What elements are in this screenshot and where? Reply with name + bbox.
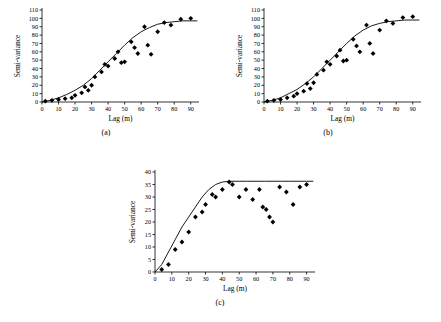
svg-text:80: 80 xyxy=(287,275,293,282)
svg-text:60: 60 xyxy=(253,275,259,282)
svg-text:90: 90 xyxy=(303,275,309,282)
svg-text:50: 50 xyxy=(254,56,260,63)
svg-text:70: 70 xyxy=(155,105,161,112)
chart-a: 0102030405060708090100110010203040506070… xyxy=(6,2,206,130)
svg-text:0: 0 xyxy=(35,98,38,105)
svg-text:110: 110 xyxy=(29,6,38,13)
svg-text:70: 70 xyxy=(32,40,38,47)
svg-text:Semi-variance: Semi-variance xyxy=(13,34,22,77)
svg-text:40: 40 xyxy=(32,65,38,72)
svg-text:40: 40 xyxy=(145,168,151,175)
svg-text:90: 90 xyxy=(32,23,38,30)
svg-text:100: 100 xyxy=(29,15,38,22)
svg-text:80: 80 xyxy=(32,31,38,38)
svg-text:90: 90 xyxy=(254,23,260,30)
svg-text:10: 10 xyxy=(169,275,175,282)
svg-text:10: 10 xyxy=(277,105,283,112)
svg-text:0: 0 xyxy=(148,268,151,275)
svg-text:110: 110 xyxy=(251,6,260,13)
svg-text:15: 15 xyxy=(145,231,151,238)
svg-text:Lag (m): Lag (m) xyxy=(223,284,248,293)
svg-text:10: 10 xyxy=(145,243,151,250)
svg-text:0: 0 xyxy=(257,98,260,105)
svg-text:40: 40 xyxy=(105,105,111,112)
panel-c-caption: (c) xyxy=(115,298,325,307)
svg-text:50: 50 xyxy=(344,105,350,112)
svg-text:30: 30 xyxy=(254,73,260,80)
svg-text:100: 100 xyxy=(251,15,260,22)
svg-text:40: 40 xyxy=(219,275,225,282)
panel-c: 05101520253035400102030405060708090Lag (… xyxy=(115,164,325,314)
svg-text:25: 25 xyxy=(145,206,151,213)
svg-text:70: 70 xyxy=(270,275,276,282)
panel-b-caption: (b) xyxy=(228,128,428,137)
chart-b: 0102030405060708090100110010203040506070… xyxy=(228,2,428,130)
panel-b: 0102030405060708090100110010203040506070… xyxy=(228,2,428,142)
svg-text:30: 30 xyxy=(145,193,151,200)
svg-text:0: 0 xyxy=(153,275,156,282)
svg-text:Lag (m): Lag (m) xyxy=(108,114,133,123)
svg-text:5: 5 xyxy=(148,256,151,263)
panel-a-caption: (a) xyxy=(6,128,206,137)
svg-text:10: 10 xyxy=(32,90,38,97)
svg-text:20: 20 xyxy=(32,81,38,88)
svg-text:40: 40 xyxy=(254,65,260,72)
svg-text:60: 60 xyxy=(138,105,144,112)
svg-text:0: 0 xyxy=(40,105,43,112)
svg-text:40: 40 xyxy=(327,105,333,112)
svg-text:50: 50 xyxy=(32,56,38,63)
svg-text:60: 60 xyxy=(360,105,366,112)
svg-text:30: 30 xyxy=(202,275,208,282)
svg-text:70: 70 xyxy=(377,105,383,112)
svg-text:35: 35 xyxy=(145,181,151,188)
svg-text:80: 80 xyxy=(254,31,260,38)
svg-text:50: 50 xyxy=(236,275,242,282)
svg-text:60: 60 xyxy=(32,48,38,55)
svg-text:30: 30 xyxy=(310,105,316,112)
svg-text:50: 50 xyxy=(122,105,128,112)
panel-a: 0102030405060708090100110010203040506070… xyxy=(6,2,206,142)
svg-text:0: 0 xyxy=(262,105,265,112)
svg-text:30: 30 xyxy=(88,105,94,112)
svg-text:90: 90 xyxy=(410,105,416,112)
svg-text:20: 20 xyxy=(254,81,260,88)
svg-text:20: 20 xyxy=(145,218,151,225)
svg-text:20: 20 xyxy=(294,105,300,112)
chart-c: 05101520253035400102030405060708090Lag (… xyxy=(115,164,325,300)
svg-text:Semi-variance: Semi-variance xyxy=(235,34,244,77)
svg-text:Semi-variance: Semi-variance xyxy=(128,200,137,243)
svg-text:Lag (m): Lag (m) xyxy=(330,114,355,123)
svg-text:60: 60 xyxy=(254,48,260,55)
svg-text:80: 80 xyxy=(171,105,177,112)
svg-text:10: 10 xyxy=(55,105,61,112)
svg-text:90: 90 xyxy=(188,105,194,112)
svg-text:20: 20 xyxy=(186,275,192,282)
svg-text:20: 20 xyxy=(72,105,78,112)
svg-text:30: 30 xyxy=(32,73,38,80)
svg-text:80: 80 xyxy=(393,105,399,112)
svg-text:70: 70 xyxy=(254,40,260,47)
svg-text:10: 10 xyxy=(254,90,260,97)
